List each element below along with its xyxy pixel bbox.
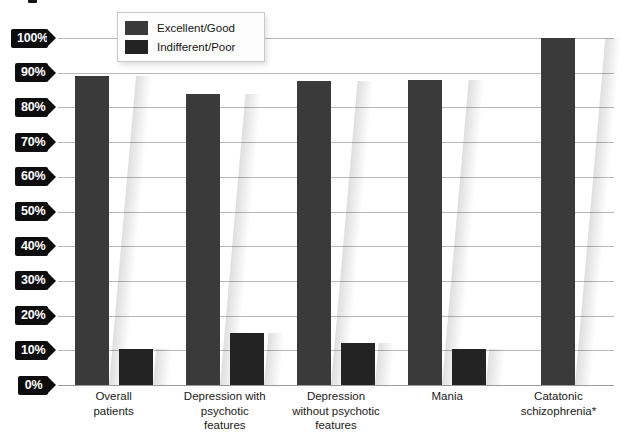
bar-excellent-good[interactable] [186, 94, 220, 385]
bar-fill [75, 76, 109, 385]
y-axis-tick-label: 20% [15, 306, 48, 325]
bar-fill [452, 349, 486, 385]
x-axis-label: Depressionwithout psychoticfeatures [272, 389, 399, 433]
y-axis-tick-label: 40% [15, 237, 48, 256]
x-axis-label-line: without psychotic [272, 404, 399, 419]
bar-group [280, 38, 391, 385]
bar-excellent-good[interactable] [541, 38, 575, 385]
bar-excellent-good[interactable] [75, 76, 109, 385]
legend-label-indifferent-poor: Indifferent/Poor [157, 41, 235, 53]
y-axis-tick-label: 100% [11, 29, 48, 48]
x-axis-label: Depression withpsychoticfeatures [161, 389, 288, 433]
legend-label-excellent-good: Excellent/Good [157, 22, 235, 34]
bar-group [58, 38, 169, 385]
bar-fill [341, 343, 375, 385]
y-axis-tick-label: 80% [15, 98, 48, 117]
y-axis-tick-pointer-icon [47, 29, 56, 47]
x-axis-label-line: schizophrenia* [495, 404, 622, 419]
x-axis-label: Catatonicschizophrenia* [495, 389, 622, 418]
x-axis-label-line: Mania [384, 389, 511, 404]
x-axis-labels: OverallpatientsDepression withpsychoticf… [58, 389, 614, 439]
x-axis-label: Mania [384, 389, 511, 404]
y-axis-tick-label: 50% [15, 202, 48, 221]
y-axis-tick-pointer-icon [47, 237, 56, 255]
bar-excellent-good[interactable] [297, 81, 331, 385]
y-axis-tick-label: 70% [15, 133, 48, 152]
y-axis-tick-pointer-icon [47, 64, 56, 82]
y-axis-tick-label: 30% [15, 271, 48, 290]
plot-area [58, 38, 614, 385]
legend-item-indifferent-poor: Indifferent/Poor [125, 37, 257, 56]
y-axis-tick-pointer-icon [47, 272, 56, 290]
bar-indifferent-poor[interactable] [119, 349, 153, 385]
y-axis-tick-pointer-icon [47, 98, 56, 116]
y-axis-tick-60pct: 60% [15, 167, 56, 186]
bar-group [392, 38, 503, 385]
y-axis-tick-80pct: 80% [15, 98, 56, 117]
y-axis-tick-pointer-icon [47, 341, 56, 359]
bar-fill [408, 80, 442, 385]
y-axis-tick-70pct: 70% [15, 133, 56, 152]
x-axis-label-line: psychotic [161, 404, 288, 419]
y-axis-tick-pointer-icon [47, 307, 56, 325]
bar-indifferent-poor[interactable] [230, 333, 264, 385]
bar-fill [541, 38, 575, 385]
bar-group [169, 38, 280, 385]
x-axis-label-line: Catatonic [495, 389, 622, 404]
x-axis-label-line: Depression [272, 389, 399, 404]
y-axis-tick-10pct: 10% [15, 341, 56, 360]
y-axis-tick-20pct: 20% [15, 306, 56, 325]
y-axis-tick-pointer-icon [47, 168, 56, 186]
bar-fill [230, 333, 264, 385]
y-axis-tick-label: 0% [18, 376, 48, 395]
bar-shadow [109, 76, 152, 385]
y-axis-tick-pointer-icon [47, 203, 56, 221]
y-axis-tick-90pct: 90% [15, 63, 56, 82]
bar-group [503, 38, 614, 385]
y-axis-tick-label: 90% [15, 63, 48, 82]
cropped-glyph-mark [28, 0, 37, 3]
x-axis-label-line: features [272, 418, 399, 433]
x-axis-label-line: Depression with [161, 389, 288, 404]
bar-shadow [575, 38, 621, 385]
legend-swatch-icon-excellent-good [125, 21, 148, 35]
y-axis-tick-label: 10% [15, 341, 48, 360]
bar-shadow [442, 80, 485, 385]
gridline [58, 385, 614, 386]
x-axis-label-line: Overall [50, 389, 177, 404]
y-axis-tick-40pct: 40% [15, 237, 56, 256]
y-axis-tick-label: 60% [15, 167, 48, 186]
legend-item-excellent-good: Excellent/Good [125, 18, 257, 37]
x-axis-label-line: features [161, 418, 288, 433]
y-axis-tick-30pct: 30% [15, 271, 56, 290]
bar-fill [297, 81, 331, 385]
x-axis-label: Overallpatients [50, 389, 177, 418]
bar-excellent-good[interactable] [408, 80, 442, 385]
bar-indifferent-poor[interactable] [341, 343, 375, 385]
y-axis-tick-50pct: 50% [15, 202, 56, 221]
bar-shadow [331, 81, 374, 385]
bar-fill [186, 94, 220, 385]
y-axis-tick-pointer-icon [47, 133, 56, 151]
bar-indifferent-poor[interactable] [452, 349, 486, 385]
bar-fill [119, 349, 153, 385]
legend-swatch-icon-indifferent-poor [125, 40, 148, 54]
legend: Excellent/Good Indifferent/Poor [117, 12, 265, 62]
x-axis-label-line: patients [50, 404, 177, 419]
y-axis-tick-100pct: 100% [11, 29, 56, 48]
